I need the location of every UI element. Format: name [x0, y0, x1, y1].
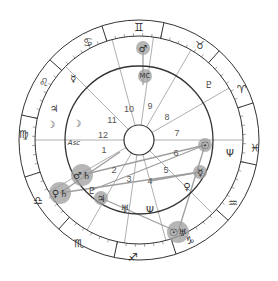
zodiac-divider	[161, 23, 164, 39]
zodiac-divider	[102, 26, 107, 41]
zodiac-divider	[238, 103, 253, 108]
planet-mercury-icon: ☿	[197, 167, 203, 178]
planet-venus-saturn-icon: ♀♄	[52, 188, 68, 199]
planet-pluto-icon: ♇	[88, 185, 97, 196]
house-cusp	[152, 88, 229, 133]
sign-leo-icon: ♌	[39, 76, 49, 89]
house-number: 9	[147, 101, 152, 111]
house-number: 2	[111, 165, 116, 175]
planet-venus-icon: ♀	[183, 181, 190, 192]
planet-pluto-outer-icon: ♇	[205, 79, 214, 90]
planet-ascendant-icon: Asc	[67, 139, 80, 147]
zodiac-divider	[25, 172, 40, 177]
zodiac-divider	[209, 51, 220, 63]
sign-sagittarius-icon: ♐	[128, 251, 138, 264]
sign-aquarius-icon: ♒	[228, 197, 238, 210]
planet-neptune-outer-icon: Ψ	[226, 148, 234, 159]
house-cusp	[125, 155, 137, 243]
sign-libra-icon: ♎	[33, 194, 43, 207]
sign-taurus-icon: ♉	[195, 39, 205, 52]
house-number: 7	[174, 128, 179, 138]
sign-cancer-icon: ♋	[83, 36, 93, 49]
house-number: 1	[101, 145, 106, 155]
house-cusp	[150, 151, 213, 214]
house-number: 12	[98, 130, 108, 140]
natal-chart-wheel: ♊♉♈♓♒♑♐♏♎♍♌♋ 123456789101112 ♂MC♇☿♃☽☽Asc…	[0, 0, 278, 281]
center-circle	[124, 125, 154, 155]
zodiac-divider	[114, 242, 117, 258]
aspect-line	[178, 145, 205, 232]
house-cusp	[143, 154, 166, 240]
planet-midheaven-icon: MC	[140, 72, 151, 80]
house-number: 8	[164, 112, 169, 122]
zodiac-divider	[216, 210, 228, 221]
zodiac-divider	[22, 115, 38, 118]
planet-jupiter-outer-icon: ♃	[50, 103, 59, 114]
house-number: 4	[147, 176, 152, 186]
sign-virgo-icon: ♍	[19, 128, 29, 141]
aspect-line	[101, 198, 178, 232]
planet-sun-icon: ☉	[201, 140, 210, 151]
house-number: 6	[173, 148, 178, 158]
house-number: 5	[163, 165, 168, 175]
zodiac-divider	[50, 60, 62, 71]
planet-moon-outer-icon: ☽	[47, 119, 56, 130]
sign-scorpio-icon: ♏	[74, 237, 84, 250]
planet-neptune-icon: Ψ	[146, 205, 154, 216]
sign-pisces-icon: ♓	[250, 142, 260, 155]
house-number: 11	[107, 115, 116, 125]
zodiac-divider	[241, 162, 257, 165]
planet-mars-saturn-icon: ♂♄	[73, 170, 91, 181]
planet-uranus-icon: ♅	[121, 203, 130, 214]
planet-jupiter-icon: ♃	[97, 193, 106, 204]
sign-gemini-icon: ♊	[134, 21, 144, 34]
planet-moon-icon: ☽	[73, 118, 82, 129]
house-number: 10	[124, 104, 134, 114]
zodiac-divider	[59, 217, 70, 229]
planet-sun-uranus-icon: ☉♅	[169, 227, 187, 238]
planet-mercury-outer-icon: ☿	[70, 73, 76, 84]
house-number: 3	[126, 174, 131, 184]
planet-mars-icon: ♂	[139, 43, 148, 54]
sign-aries-icon: ♈	[237, 83, 247, 96]
